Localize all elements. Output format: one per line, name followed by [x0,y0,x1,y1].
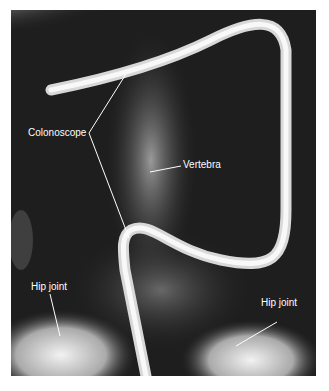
label-hip-joint-left: Hip joint [31,281,67,292]
label-colonoscope: Colonoscope [28,127,86,138]
xray-image: Colonoscope Vertebra Hip joint Hip joint [11,10,316,376]
label-hip-joint-right: Hip joint [261,297,297,308]
label-vertebra: Vertebra [183,159,221,170]
